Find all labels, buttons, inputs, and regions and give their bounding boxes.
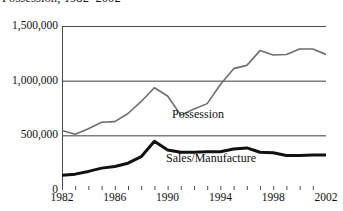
y-axis-tick-label: 1,500,000 [12,20,58,32]
chart-screenshot: Possession, 1982–2002 0500,0001,000,0001… [0,0,343,211]
y-axis-tick-label: 1,000,000 [12,75,58,87]
series-label-sales-manufacture: Sales/Manufacture [166,152,256,164]
x-axis-tick-label: 1990 [156,192,179,204]
x-axis-tick-labels: 198219861990199419982002 [0,192,343,209]
series-label-possession: Possession [172,108,224,120]
x-axis-tick-label: 1982 [51,192,74,204]
x-axis-tick-label: 1986 [103,192,126,204]
x-axis-tick-label: 1994 [209,192,232,204]
y-axis-tick-label: 500,000 [21,129,58,141]
x-axis-ticks [63,186,327,190]
y-axis-tick-labels: 0500,0001,000,0001,500,000 [0,0,58,211]
x-axis-tick-label: 1998 [262,192,285,204]
x-axis-tick-label: 2002 [315,192,338,204]
